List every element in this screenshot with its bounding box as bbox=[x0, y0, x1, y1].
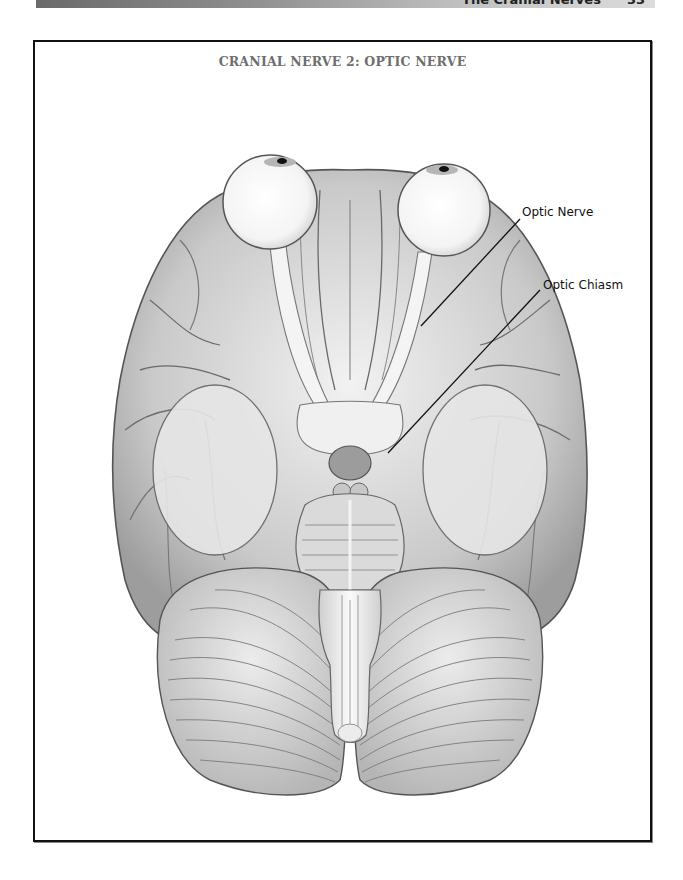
label-optic-chiasm: Optic Chiasm bbox=[543, 278, 623, 292]
pituitary-mammillary bbox=[329, 446, 371, 501]
label-optic-nerve: Optic Nerve bbox=[522, 205, 593, 219]
pons bbox=[296, 494, 404, 590]
brain-illustration bbox=[0, 0, 683, 880]
